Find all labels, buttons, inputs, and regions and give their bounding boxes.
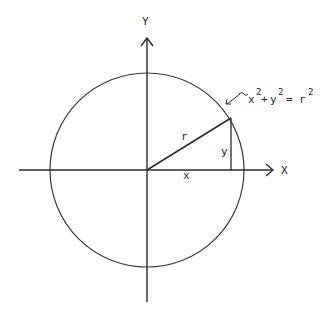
y-axis-label: Y (142, 15, 149, 28)
y-segment-label: y (221, 145, 228, 158)
radius-line (147, 118, 231, 170)
x-axis-label: X (281, 164, 288, 177)
pointer-arrow-shaft (227, 94, 240, 104)
x-segment-label: x (183, 169, 190, 182)
equation-r-exponent: 2 (308, 87, 313, 97)
circle-diagram: Y X r x y x 2 + y 2 = r 2 (0, 0, 331, 318)
pointer-arrow-icon (239, 93, 248, 96)
equation-equals: = (286, 93, 293, 106)
radius-label: r (181, 130, 188, 143)
equation-x: x (248, 93, 255, 106)
equation-plus: + (261, 93, 268, 106)
equation-r: r (299, 93, 306, 106)
diagram-canvas: Y X r x y x 2 + y 2 = r 2 (0, 0, 331, 318)
equation-y-exponent: 2 (278, 87, 283, 97)
equation-y: y (270, 93, 277, 106)
